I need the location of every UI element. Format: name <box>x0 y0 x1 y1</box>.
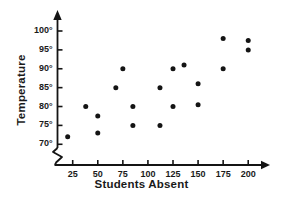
data-point <box>171 104 176 109</box>
x-axis-tick-label: 25 <box>60 169 86 179</box>
y-axis-tick-label: 85° <box>25 82 53 92</box>
y-axis-tick-label: 100° <box>25 25 53 35</box>
data-point <box>196 102 201 107</box>
data-point <box>196 81 201 86</box>
y-axis-tick-label: 95° <box>25 44 53 54</box>
data-point <box>113 85 118 90</box>
data-point <box>120 66 125 71</box>
data-point <box>157 123 162 128</box>
x-axis-tick-label: 125 <box>160 169 186 179</box>
y-axis-tick-label: 90° <box>25 63 53 73</box>
data-point <box>95 113 100 118</box>
y-axis-tick-label: 70° <box>25 138 53 148</box>
x-axis-tick-label: 75 <box>110 169 136 179</box>
data-point <box>130 104 135 109</box>
data-point <box>130 123 135 128</box>
x-axis-title: Students Absent <box>0 178 283 190</box>
scatter-plot-figure: Temperature Students Absent 70°75°80°85°… <box>0 0 283 201</box>
x-axis-tick-label: 50 <box>85 169 111 179</box>
y-axis-arrow-icon <box>53 10 61 20</box>
x-axis-tick-label: 200 <box>235 169 261 179</box>
data-point <box>246 38 251 43</box>
data-point <box>95 130 100 135</box>
x-axis-arrow-icon <box>261 161 270 169</box>
data-point <box>221 66 226 71</box>
axis-break-icon <box>53 148 62 163</box>
data-point <box>221 36 226 41</box>
data-point <box>182 62 187 67</box>
data-point <box>65 134 70 139</box>
data-point <box>246 47 251 52</box>
data-point <box>157 85 162 90</box>
x-axis-tick-label: 175 <box>210 169 236 179</box>
data-point <box>83 104 88 109</box>
data-point <box>171 66 176 71</box>
x-axis-tick-label: 100 <box>135 169 161 179</box>
y-axis-tick-label: 75° <box>25 119 53 129</box>
x-axis-tick-label: 150 <box>185 169 211 179</box>
y-axis-tick-label: 80° <box>25 101 53 111</box>
